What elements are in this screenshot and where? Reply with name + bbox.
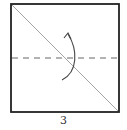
origami-diagram [0,0,127,130]
step-number: 3 [0,114,127,128]
